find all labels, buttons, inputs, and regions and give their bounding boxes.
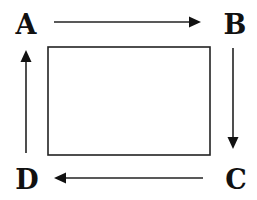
arrow-right-icon: [189, 17, 201, 28]
node-label-d: D: [15, 164, 38, 195]
arrow-down-icon: [228, 137, 239, 149]
arrow-up-icon: [21, 50, 32, 62]
cycle-diagram: A B C D: [0, 0, 257, 200]
edge-a-to-b: [54, 17, 201, 28]
edge-d-to-a: [21, 50, 32, 153]
edge-c-to-d: [54, 173, 203, 184]
arrow-left-icon: [54, 173, 66, 184]
edge-b-to-c: [228, 48, 239, 149]
node-label-b: B: [224, 9, 247, 40]
node-label-c: C: [225, 164, 247, 195]
node-label-a: A: [15, 9, 38, 40]
center-box: [48, 47, 210, 155]
